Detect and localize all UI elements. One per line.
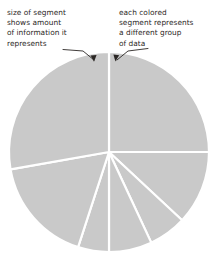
annotation-right-text: each colored segment represents a differ… xyxy=(119,8,215,49)
annotation-left-text: size of segment shows amount of informat… xyxy=(7,8,99,49)
pie-slice[interactable] xyxy=(109,52,209,152)
pie-chart-figure: size of segment shows amount of informat… xyxy=(0,0,216,254)
pie-slice[interactable] xyxy=(9,52,109,169)
